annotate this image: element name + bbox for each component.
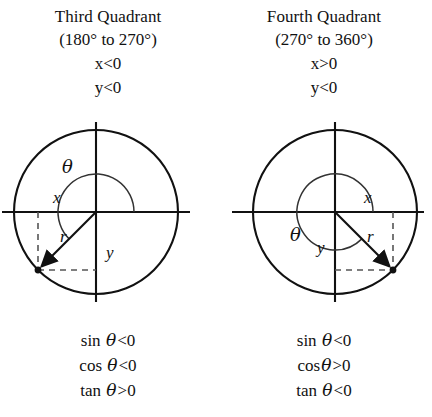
formula-sin-name: sin: [297, 331, 317, 350]
formula-sin: sin θ<0: [81, 328, 135, 353]
formula-sin-theta: θ: [105, 330, 117, 350]
formula-cos: cosθ>0: [297, 353, 350, 378]
formula-tan-theta: θ: [105, 380, 117, 400]
label-y: y: [315, 238, 325, 257]
formula-sin-relation: <0: [117, 331, 135, 350]
unit-circle-diagram-fourth: θ x y r: [216, 120, 432, 315]
label-y: y: [104, 243, 114, 262]
condition-x: x>0: [311, 53, 338, 74]
label-x: x: [52, 188, 61, 207]
formula-cos-relation: <0: [119, 356, 137, 375]
panel-fourth-quadrant: Fourth Quadrant (270° to 360°) x>0 y<0: [216, 0, 432, 417]
panel-angle-range: (270° to 360°): [275, 29, 373, 50]
formula-list-third: sin θ<0 cos θ<0 tan θ>0: [0, 328, 216, 403]
terminal-ray: [335, 212, 390, 267]
formula-cos-theta: θ: [106, 355, 118, 375]
panel-title: Fourth Quadrant: [267, 6, 381, 27]
unit-circle-diagram-third: θ x y r: [0, 120, 216, 315]
formula-tan-relation: <0: [334, 381, 352, 400]
label-theta: θ: [62, 156, 73, 177]
label-theta: θ: [290, 224, 301, 245]
formula-tan: tan θ<0: [296, 378, 351, 403]
formula-tan-relation: >0: [118, 381, 136, 400]
label-r: r: [367, 227, 374, 246]
panel-third-quadrant: Third Quadrant (180° to 270°) x<0 y<0: [0, 0, 216, 417]
terminal-ray: [42, 212, 97, 267]
terminal-point: [35, 267, 42, 274]
condition-x: x<0: [95, 53, 122, 74]
formula-sin: sin θ<0: [297, 328, 351, 353]
formula-list-fourth: sin θ<0 cosθ>0 tan θ<0: [216, 328, 432, 403]
quadrant-figure: Third Quadrant (180° to 270°) x<0 y<0: [0, 0, 432, 417]
formula-cos-name: cos: [297, 356, 320, 375]
panel-angle-range: (180° to 270°): [59, 29, 157, 50]
formula-cos: cos θ<0: [79, 353, 136, 378]
formula-tan-name: tan: [80, 381, 101, 400]
formula-cos-name: cos: [79, 356, 102, 375]
formula-tan-theta: θ: [321, 380, 333, 400]
label-x: x: [363, 188, 372, 207]
condition-y: y<0: [311, 77, 338, 98]
formula-cos-relation: >0: [332, 356, 350, 375]
formula-tan: tan θ>0: [80, 378, 135, 403]
formula-cos-theta: θ: [320, 355, 332, 375]
formula-sin-name: sin: [81, 331, 101, 350]
formula-sin-relation: <0: [333, 331, 351, 350]
formula-tan-name: tan: [296, 381, 317, 400]
condition-y: y<0: [95, 77, 122, 98]
terminal-point: [390, 267, 397, 274]
formula-sin-theta: θ: [321, 330, 333, 350]
label-r: r: [60, 227, 67, 246]
panel-title: Third Quadrant: [55, 6, 162, 27]
